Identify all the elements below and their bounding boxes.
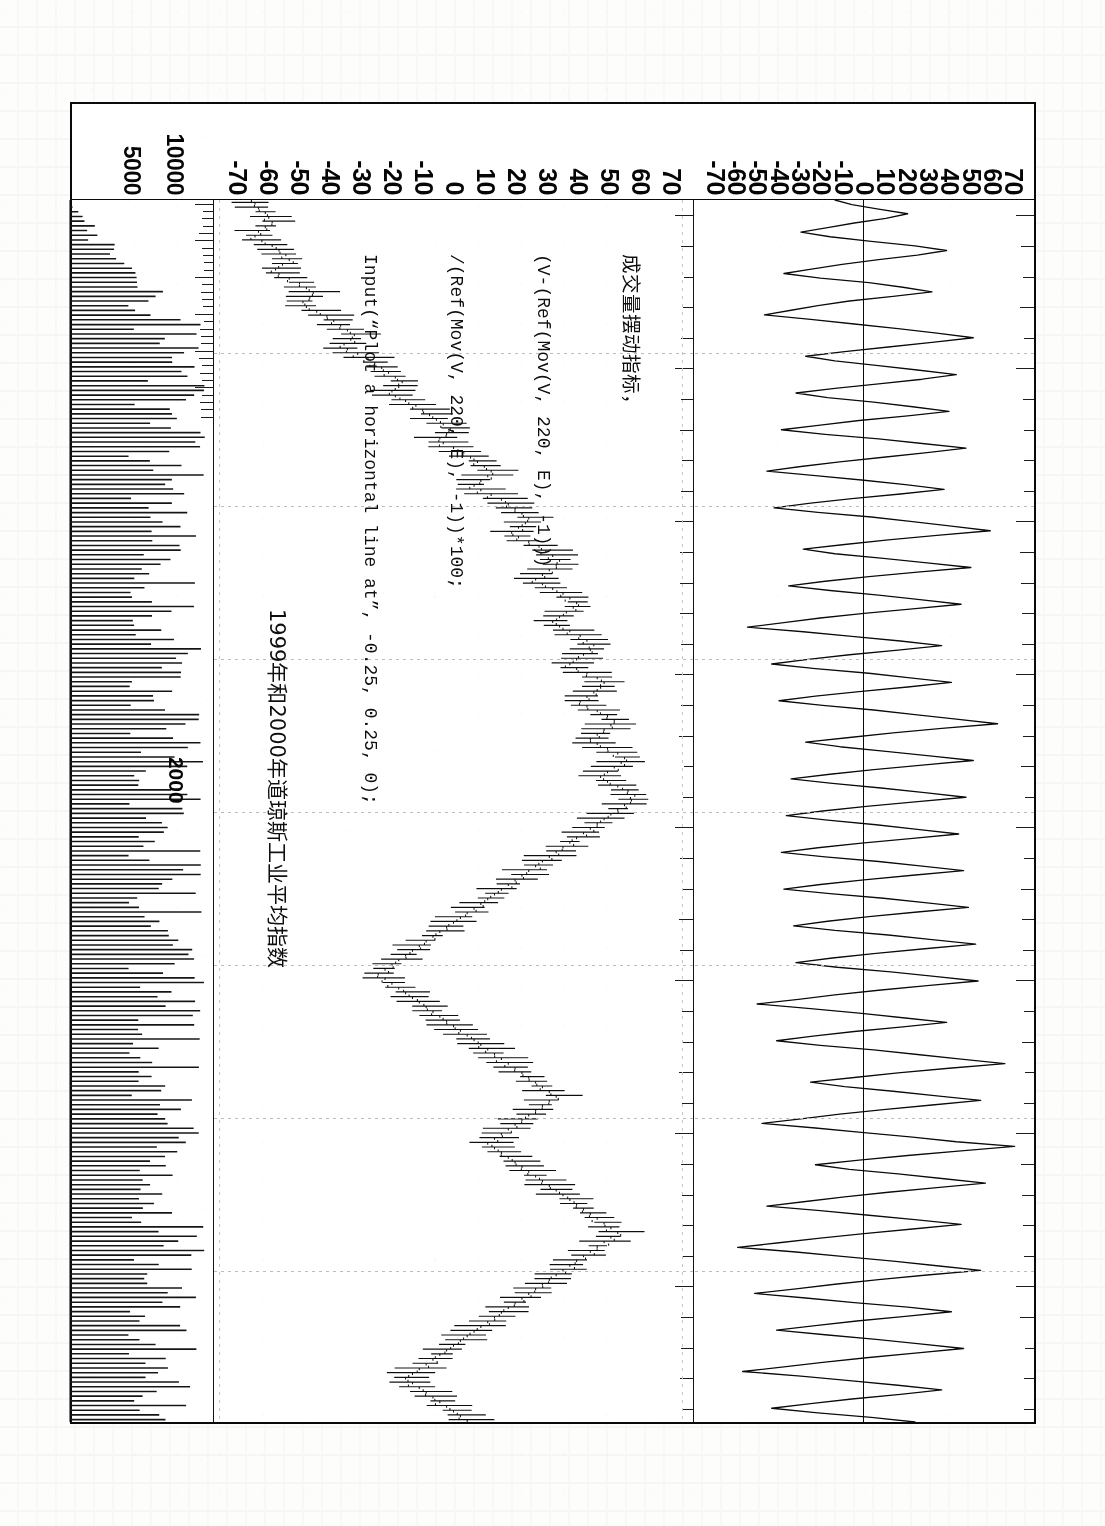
panel-volume-histogram (68, 200, 214, 1422)
scale-tick-70: 70 (656, 168, 685, 195)
oscillator-zero-line (863, 200, 864, 1422)
scale-tick-neg20: -20 (377, 160, 406, 195)
scale-tick-neg50: -50 (284, 160, 313, 195)
rotated-figure-stage: 706050403020100-10-20-30-40-50-60-707060… (70, 102, 1036, 1424)
scale-tick-20: 20 (501, 168, 530, 195)
scale-tick-50: 50 (594, 168, 623, 195)
scale-tick-neg70: -70 (222, 160, 251, 195)
year-marker-2000: 2000 (164, 757, 188, 804)
formula-line-2: /(Ref(Mov(V, 220, E), -1))*100; (441, 254, 468, 805)
oscillator-line (737, 200, 1014, 1422)
scale-tick-neg30: -30 (346, 160, 375, 195)
gridline-vertical (214, 1271, 693, 1272)
scale-tick-neg70: -70 (700, 160, 729, 195)
value-scale-axis: 706050403020100-10-20-30-40-50-60-707060… (72, 104, 1034, 200)
scale-tick-0: 0 (439, 182, 468, 195)
scale-tick-10000: 10000 (161, 134, 188, 195)
scale-tick-5000: 5000 (118, 146, 145, 195)
scale-tick-60: 60 (625, 168, 654, 195)
scale-tick-10: 10 (470, 168, 499, 195)
formula-title: 成交量摆动指标， (615, 254, 645, 805)
formula-annotation: 成交量摆动指标， (V-(Ref(Mov(V, 220, E), -1))) /… (296, 254, 704, 805)
chart-figure-frame: 706050403020100-10-20-30-40-50-60-707060… (70, 102, 1036, 1424)
volume-bars (69, 200, 204, 1422)
volume-histogram-series (68, 200, 213, 1422)
gridline-vertical (214, 1118, 693, 1119)
figure-caption: 1999年和2000年道琼斯工业平均指数 (260, 609, 292, 968)
scale-tick-40: 40 (563, 168, 592, 195)
scale-tick-neg60: -60 (253, 160, 282, 195)
scale-tick-neg10: -10 (408, 160, 437, 195)
formula-line-3: Input(“Plot a horizontal line at”, -0.25… (355, 254, 382, 805)
panel-volume-oscillator-upper (694, 200, 1034, 1422)
scale-tick-30: 30 (532, 168, 561, 195)
scale-tick-neg40: -40 (315, 160, 344, 195)
gridline-horizontal (219, 200, 220, 1422)
formula-line-1: (V-(Ref(Mov(V, 220, E), -1))) (528, 254, 555, 805)
panel1-plot-area (694, 200, 1034, 1422)
panel3-plot-area (68, 200, 213, 1422)
